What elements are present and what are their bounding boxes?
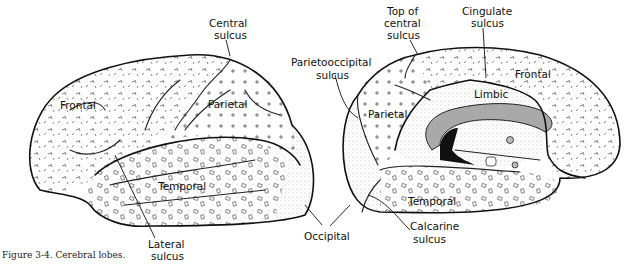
medial-brain-view (330, 28, 620, 230)
label-occipital: Occipital (304, 230, 350, 242)
label-central-sulcus-2: sulcus (214, 29, 247, 41)
label-lateral-sulcus-2: sulcus (151, 250, 184, 262)
label-lateral-sulcus-1: Lateral (148, 238, 185, 250)
label-medial-parietal: Parietal (368, 108, 407, 120)
medial-temporal-lobe (380, 166, 560, 213)
label-cingulate-2: sulcus (471, 17, 504, 29)
label-medial-limbic: Limbic (474, 88, 509, 100)
label-top-central-2: central (384, 17, 421, 29)
label-medial-temporal: Temporal (407, 195, 456, 207)
label-parietooccipital-1: Parietooccipital (291, 56, 371, 68)
label-lateral-parietal: Parietal (208, 98, 247, 110)
label-calcarine-1: Calcarine (410, 220, 459, 232)
label-parietooccipital-2: sulcus (316, 69, 349, 81)
label-medial-frontal: Frontal (515, 68, 551, 80)
label-top-central-3: sulcus (387, 29, 420, 41)
label-central-sulcus-1: Central (209, 17, 247, 29)
label-calcarine-2: sulcus (413, 233, 446, 245)
lateral-brain-view (30, 40, 322, 238)
label-cingulate-1: Cingulate (462, 5, 512, 17)
cerebral-lobes-diagram: Central sulcus Frontal Parietal Temporal… (0, 0, 629, 267)
label-lateral-frontal: Frontal (60, 99, 96, 111)
figure-caption: Figure 3-4. Cerebral lobes. (2, 250, 125, 260)
label-lateral-temporal: Temporal (157, 180, 206, 192)
label-top-central-1: Top of (386, 5, 418, 17)
